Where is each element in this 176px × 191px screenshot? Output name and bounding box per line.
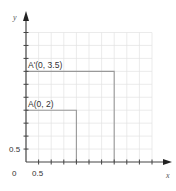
axes	[23, 11, 172, 165]
point-a-label: A(0, 2)	[28, 99, 54, 109]
x-tick-label: 0.5	[32, 169, 44, 178]
y-tick-label: 0.5	[9, 145, 21, 154]
origin-label: 0	[12, 169, 17, 178]
square-a-prime-outline	[26, 71, 114, 162]
point-a-prime-label: A'(0, 3.5)	[28, 60, 62, 70]
y-axis-arrow-icon	[23, 11, 29, 21]
x-axis-label: x	[165, 171, 170, 180]
x-axis-arrow-icon	[163, 159, 172, 165]
grid	[26, 33, 152, 163]
y-axis-label: y	[12, 13, 17, 22]
squares	[26, 71, 114, 162]
coordinate-diagram: x y 0 0.5 0.5 A(0, 2) A'(0, 3.5)	[0, 0, 176, 191]
